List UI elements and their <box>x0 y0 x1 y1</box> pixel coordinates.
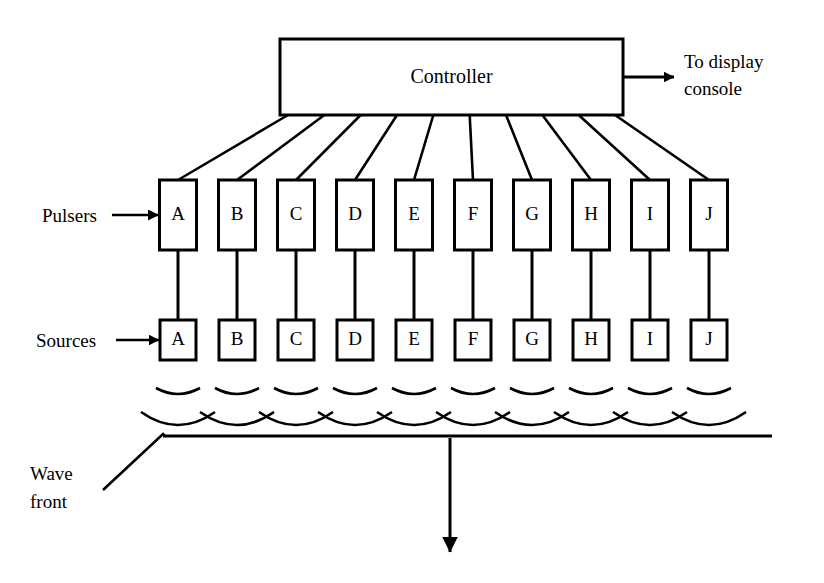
wave-front-leader <box>103 434 165 490</box>
fan-line-d <box>355 115 397 180</box>
source-label-a: A <box>171 328 185 349</box>
pulser-a: A <box>160 180 197 250</box>
diagram-canvas: ControllerTo displayconsoleABCDEFGHIJABC… <box>0 0 824 583</box>
wavelet-upper-d <box>333 388 377 394</box>
wavelet-upper-h <box>569 388 613 394</box>
wavelet-upper-f <box>451 388 495 394</box>
source-d: D <box>337 320 373 360</box>
fan-line-b <box>237 115 324 180</box>
source-label-g: G <box>525 328 539 349</box>
controller-label: Controller <box>410 65 493 87</box>
wavelet-upper-g <box>510 388 554 394</box>
source-label-h: H <box>584 328 598 349</box>
pulser-c: C <box>278 180 315 250</box>
pulser-label-i: I <box>647 203 653 224</box>
pulser-f: F <box>455 180 492 250</box>
pulsers-label: Pulsers <box>42 205 97 226</box>
wavelet-upper-b <box>215 388 259 394</box>
pulser-label-j: J <box>705 203 712 224</box>
pulser-label-b: B <box>231 203 244 224</box>
pulser-label-a: A <box>171 203 185 224</box>
wavelet-upper-j <box>687 388 731 394</box>
pulser-label-h: H <box>584 203 598 224</box>
pulser-label-g: G <box>525 203 539 224</box>
fan-line-h <box>542 115 591 180</box>
source-label-d: D <box>348 328 362 349</box>
wavelet-upper-i <box>628 388 672 394</box>
source-b: B <box>219 320 255 360</box>
wave-front-label-line2: front <box>30 491 68 512</box>
source-c: C <box>278 320 314 360</box>
sources-label: Sources <box>36 330 96 351</box>
pulser-h: H <box>573 180 610 250</box>
source-j: J <box>691 320 727 360</box>
wave-front-label-line1: Wave <box>30 463 73 484</box>
source-a: A <box>160 320 196 360</box>
source-g: G <box>514 320 550 360</box>
source-label-b: B <box>231 328 244 349</box>
source-e: E <box>396 320 432 360</box>
fan-line-a <box>178 115 288 180</box>
fan-line-i <box>579 115 650 180</box>
to-display-console-label-line2: console <box>684 78 742 99</box>
wavelet-upper-c <box>274 388 318 394</box>
fan-line-j <box>615 115 709 180</box>
pulser-j: J <box>691 180 728 250</box>
to-display-console-label-line1: To display <box>684 51 764 72</box>
source-label-f: F <box>468 328 479 349</box>
fan-line-c <box>296 115 361 180</box>
pulser-b: B <box>219 180 256 250</box>
pulser-label-e: E <box>408 203 420 224</box>
source-label-c: C <box>290 328 303 349</box>
wavelet-upper-e <box>392 388 436 394</box>
pulser-g: G <box>514 180 551 250</box>
source-label-i: I <box>647 328 653 349</box>
fan-line-f <box>470 115 473 180</box>
wavelet-upper-a <box>156 388 200 394</box>
pulser-i: I <box>632 180 669 250</box>
pulser-label-d: D <box>348 203 362 224</box>
source-i: I <box>632 320 668 360</box>
source-f: F <box>455 320 491 360</box>
source-label-e: E <box>408 328 420 349</box>
pulser-label-f: F <box>468 203 479 224</box>
pulser-e: E <box>396 180 433 250</box>
fan-line-e <box>414 115 433 180</box>
diagram-svg: ControllerTo displayconsoleABCDEFGHIJABC… <box>0 0 824 583</box>
pulser-label-c: C <box>290 203 303 224</box>
pulser-d: D <box>337 180 374 250</box>
source-h: H <box>573 320 609 360</box>
source-label-j: J <box>705 328 712 349</box>
fan-line-g <box>506 115 532 180</box>
